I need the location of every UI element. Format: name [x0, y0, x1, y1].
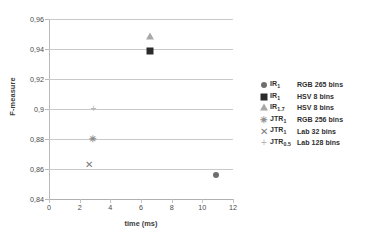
x-tick-label: 2 — [78, 204, 82, 211]
y-tick-mark — [45, 19, 49, 20]
y-tick-label: 0,86 — [30, 166, 44, 173]
x-tick-label: 12 — [229, 204, 237, 211]
x-tick-label: 0 — [47, 204, 51, 211]
legend-item[interactable]: ✳JTR1RGB 256 bins — [258, 114, 379, 126]
legend-item-name: IR1 — [270, 80, 297, 89]
legend-marker-icon: ✳ — [258, 114, 270, 125]
y-tick-mark — [45, 79, 49, 80]
gridline — [49, 139, 233, 140]
y-tick-mark — [45, 49, 49, 50]
scatter-chart: ✳✕+ 0,840,860,880,90,920,940,96 02468101… — [0, 0, 379, 246]
x-tick-mark — [233, 199, 234, 203]
y-tick-mark — [45, 109, 49, 110]
legend-item[interactable]: ✕JTR1Lab 32 bins — [258, 125, 379, 137]
legend-marker-icon: ✕ — [258, 126, 270, 137]
y-tick-label: 0,96 — [30, 16, 44, 23]
gridline — [49, 49, 233, 50]
marker-square — [261, 93, 268, 100]
x-axis-ticks: 024681012 — [49, 204, 233, 216]
gridline — [49, 169, 233, 170]
legend-item-description: RGB 265 bins — [297, 81, 343, 88]
y-axis-title: F-measure — [8, 57, 17, 137]
plot-area: ✳✕+ — [49, 19, 233, 199]
x-tick-mark — [202, 199, 203, 203]
marker-cross: ✕ — [258, 127, 270, 137]
y-tick-label: 0,88 — [30, 136, 44, 143]
legend-item-description: RGB 256 bins — [297, 116, 343, 123]
y-tick-label: 0,94 — [30, 46, 44, 53]
legend-item-name: IR1.7 — [270, 103, 297, 112]
data-point — [213, 172, 219, 178]
legend-item-description: Lab 32 bins — [297, 128, 336, 135]
x-tick-label: 6 — [139, 204, 143, 211]
x-tick-mark — [141, 199, 142, 203]
legend-item[interactable]: IR1HSV 8 bins — [258, 91, 379, 103]
marker-asterisk: ✳ — [258, 116, 270, 125]
y-tick-mark — [45, 139, 49, 140]
legend-item[interactable]: IR1RGB 265 bins — [258, 79, 379, 91]
x-tick-mark — [172, 199, 173, 203]
legend-item-description: HSV 8 bins — [297, 104, 334, 111]
legend-item-name: JTR1 — [270, 115, 297, 124]
x-axis-title: time (ms) — [49, 219, 233, 228]
gridline — [49, 109, 233, 110]
gridline — [49, 79, 233, 80]
legend: IR1RGB 265 binsIR1HSV 8 binsIR1.7HSV 8 b… — [258, 79, 379, 149]
x-tick-mark — [49, 199, 50, 203]
data-point: ✕ — [83, 160, 95, 170]
legend-item-name: JTR0.5 — [270, 138, 297, 147]
legend-item-name: IR1 — [270, 92, 297, 101]
x-tick-label: 8 — [170, 204, 174, 211]
marker-triangle — [260, 104, 268, 111]
legend-marker-icon — [258, 91, 270, 102]
legend-item[interactable]: +JTR0.5Lab 128 bins — [258, 137, 379, 149]
x-tick-label: 4 — [108, 204, 112, 211]
legend-marker-icon — [258, 79, 270, 90]
legend-item[interactable]: IR1.7HSV 8 bins — [258, 102, 379, 114]
y-tick-label: 0,92 — [30, 76, 44, 83]
data-point — [147, 47, 154, 54]
legend-marker-icon — [258, 102, 270, 113]
data-point — [146, 33, 154, 40]
x-tick-label: 10 — [198, 204, 206, 211]
marker-plus: + — [258, 138, 270, 148]
legend-item-description: Lab 128 bins — [297, 139, 340, 146]
y-tick-label: 0,9 — [34, 106, 44, 113]
data-point: + — [87, 104, 99, 114]
x-tick-mark — [80, 199, 81, 203]
x-tick-mark — [110, 199, 111, 203]
legend-item-name: JTR1 — [270, 126, 297, 135]
y-tick-label: 0,84 — [30, 196, 44, 203]
gridline — [49, 19, 233, 20]
legend-marker-icon: + — [258, 137, 270, 148]
marker-circle — [261, 82, 267, 88]
legend-item-description: HSV 8 bins — [297, 93, 334, 100]
data-point: ✳ — [87, 135, 99, 144]
y-tick-mark — [45, 169, 49, 170]
